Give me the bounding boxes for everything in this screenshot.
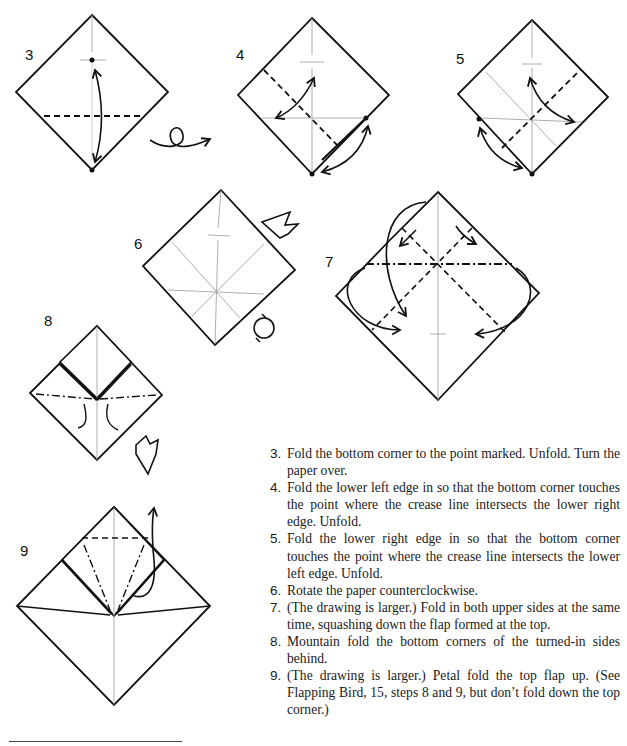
step-8-diagram xyxy=(30,326,162,474)
instruction-step-5: 5.Fold the lower right edge in so that t… xyxy=(270,530,620,581)
instructions-list: 3.Fold the bottom corner to the point ma… xyxy=(270,445,620,719)
step-9-diagram xyxy=(17,507,210,705)
rotate-counterclockwise-symbol xyxy=(254,318,274,338)
footnote-rule xyxy=(9,741,182,742)
instruction-step-4: 4.Fold the lower left edge in so that th… xyxy=(270,479,620,530)
enlarge-symbol xyxy=(136,436,158,474)
step-5-diagram xyxy=(458,20,608,177)
instruction-step-3: 3.Fold the bottom corner to the point ma… xyxy=(270,445,620,479)
reference-point xyxy=(90,168,95,173)
instruction-step-6: 6.Rotate the paper counterclockwise. xyxy=(270,582,620,599)
enlarge-symbol xyxy=(262,212,298,238)
instruction-step-7: 7.(The drawing is larger.) Fold in both … xyxy=(270,599,620,633)
instruction-step-8: 8.Mountain fold the bottom corners of th… xyxy=(270,633,620,667)
turn-over-arrow xyxy=(150,128,210,147)
step-4-diagram xyxy=(238,18,389,177)
step-7-diagram xyxy=(336,192,539,400)
reference-point xyxy=(90,58,95,63)
step-3-diagram xyxy=(16,15,210,173)
instruction-step-9: 9.(The drawing is larger.) Petal fold th… xyxy=(270,667,620,718)
step-6-diagram xyxy=(143,190,298,345)
